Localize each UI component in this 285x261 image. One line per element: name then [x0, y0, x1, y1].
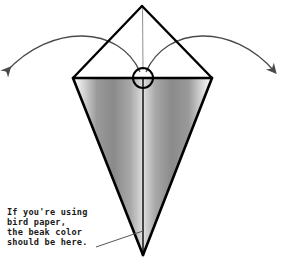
origami-diagram-canvas: If you're using bird paper, the beak col…: [0, 0, 285, 261]
note-line-2: bird paper,: [7, 217, 66, 227]
beak-color-note: If you're using bird paper, the beak col…: [7, 207, 88, 247]
vertical-fold-line-upper: [143, 8, 144, 70]
origami-diagram-svg: If you're using bird paper, the beak col…: [0, 0, 285, 261]
note-line-4: should be here.: [7, 237, 88, 247]
note-line-3: the beak color: [7, 227, 82, 237]
note-line-1: If you're using: [7, 207, 88, 217]
